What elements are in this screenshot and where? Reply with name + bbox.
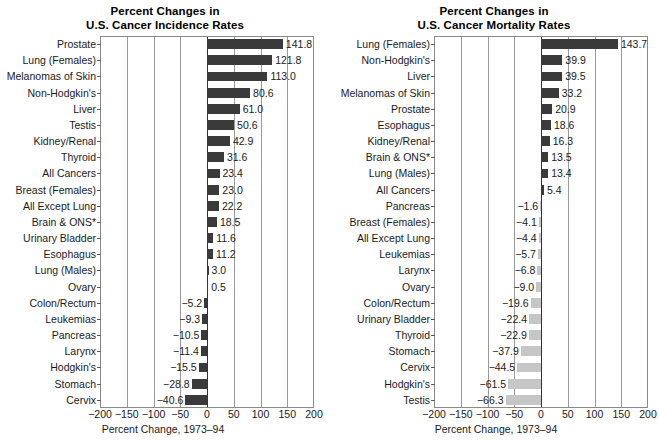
bar <box>541 104 552 114</box>
y-axis-tick <box>97 190 101 191</box>
bar-row: Pancreas−10.5 <box>0 327 330 343</box>
category-label: Urinary Bladder <box>329 311 430 327</box>
figure-root: Percent Changes in U.S. Cancer Incidence… <box>0 0 659 442</box>
bar <box>536 282 541 292</box>
bar <box>541 169 548 179</box>
bar-row: Stomach−37.9 <box>329 343 659 359</box>
y-axis-tick <box>97 335 101 336</box>
x-axis-ticks-mortality: −200−150−100−50050100150200 <box>434 408 648 422</box>
bar <box>207 233 213 243</box>
bar <box>207 169 220 179</box>
bar <box>207 120 234 130</box>
bar-value-label: −10.5 <box>173 327 200 343</box>
bar-value-label: 22.2 <box>222 198 242 214</box>
bar <box>521 346 541 356</box>
bar-value-label: 20.9 <box>555 101 575 117</box>
category-label: Larynx <box>329 262 430 278</box>
bar <box>201 346 207 356</box>
y-axis-tick <box>97 270 101 271</box>
bar-value-label: 16.3 <box>553 133 573 149</box>
bar-value-label: −4.1 <box>516 214 537 230</box>
bar <box>201 330 207 340</box>
bar-value-label: −6.8 <box>515 262 536 278</box>
y-axis-tick <box>431 367 435 368</box>
bar-value-label: 31.6 <box>227 149 247 165</box>
y-axis-tick <box>431 44 435 45</box>
category-label: Cervix <box>329 359 430 375</box>
bar-value-label: −66.3 <box>477 392 504 408</box>
y-axis-tick <box>431 60 435 61</box>
y-axis-tick <box>97 141 101 142</box>
category-label: Thyroid <box>329 327 430 343</box>
bar-value-label: 13.5 <box>551 149 571 165</box>
bar <box>207 152 224 162</box>
bar-value-label: −9.3 <box>179 311 200 327</box>
category-label: Liver <box>0 101 96 117</box>
y-axis-tick <box>97 319 101 320</box>
bar-value-label: 113.0 <box>270 68 296 84</box>
y-axis-tick <box>431 141 435 142</box>
category-label: Stomach <box>0 376 96 392</box>
bar-row: Lung (Females)121.8 <box>0 52 330 68</box>
bar-row: Colon/Rectum−19.6 <box>329 295 659 311</box>
bar-value-label: −1.6 <box>517 198 538 214</box>
chart-panel-mortality: Percent Changes in U.S. Cancer Mortality… <box>329 0 659 442</box>
bar-row: Breast (Females)−4.1 <box>329 214 659 230</box>
category-label: Non-Hodgkin's <box>329 52 430 68</box>
bar-row: Non-Hodgkin's80.6 <box>0 85 330 101</box>
bar-value-label: 11.6 <box>216 230 236 246</box>
bar <box>539 217 541 227</box>
category-label: Kidney/Renal <box>0 133 96 149</box>
bar <box>202 314 207 324</box>
chart-title-line1: Percent Changes in <box>110 5 219 17</box>
bar-value-label: −40.6 <box>157 392 184 408</box>
category-label: Testis <box>0 117 96 133</box>
bar-value-label: −44.5 <box>489 359 516 375</box>
bar-row: Testis−66.3 <box>329 392 659 408</box>
bar <box>541 88 559 98</box>
rows-incidence: Prostate141.8Lung (Females)121.8Melanoma… <box>0 36 330 408</box>
y-axis-tick <box>97 351 101 352</box>
bar <box>199 363 207 373</box>
y-axis-tick <box>431 190 435 191</box>
bar-value-label: −9.0 <box>513 279 534 295</box>
category-label: Prostate <box>329 101 430 117</box>
bar-value-label: −15.5 <box>170 359 197 375</box>
bar-row: Esophagus11.2 <box>0 246 330 262</box>
bar-value-label: −11.4 <box>173 343 199 359</box>
bar-row: Breast (Females)23.0 <box>0 182 330 198</box>
category-label: Testis <box>329 392 430 408</box>
bar-row: Urinary Bladder11.6 <box>0 230 330 246</box>
y-axis-tick <box>431 125 435 126</box>
bar-value-label: 50.6 <box>237 117 257 133</box>
bar-value-label: 61.0 <box>243 101 263 117</box>
bar-row: Lung (Males)13.4 <box>329 165 659 181</box>
chart-title-mortality: Percent Changes in U.S. Cancer Mortality… <box>329 4 659 32</box>
bar-value-label: 3.0 <box>212 262 227 278</box>
bar-value-label: 23.0 <box>222 182 242 198</box>
bar-row: Hodgkin's−15.5 <box>0 359 330 375</box>
category-label: Lung (Females) <box>329 36 430 52</box>
bar <box>207 104 240 114</box>
category-label: Melanomas of Skin <box>329 85 430 101</box>
bar-row: Melanomas of Skin113.0 <box>0 68 330 84</box>
x-axis-tick-label: 200 <box>628 408 659 421</box>
bar-value-label: 121.8 <box>275 52 301 68</box>
y-axis-tick <box>431 384 435 385</box>
bar-row: Stomach−28.8 <box>0 376 330 392</box>
bar-row: All Cancers5.4 <box>329 182 659 198</box>
bar-row: Ovary−9.0 <box>329 279 659 295</box>
category-label: Lung (Females) <box>0 52 96 68</box>
bar-value-label: 11.2 <box>216 246 236 262</box>
bar-value-label: 141.8 <box>286 36 312 52</box>
bar <box>531 298 541 308</box>
bar-row: Hodgkin's−61.5 <box>329 376 659 392</box>
bar-value-label: −37.9 <box>492 343 519 359</box>
bar-value-label: −22.9 <box>500 327 527 343</box>
bar-row: Testis50.6 <box>0 117 330 133</box>
bar-value-label: 13.4 <box>551 165 571 181</box>
bar-row: Larynx−6.8 <box>329 262 659 278</box>
bar <box>207 136 230 146</box>
bar-row: Thyroid−22.9 <box>329 327 659 343</box>
bar-value-label: −19.6 <box>502 295 529 311</box>
